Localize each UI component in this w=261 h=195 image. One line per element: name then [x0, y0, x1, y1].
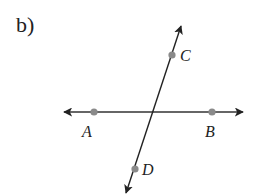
point-b — [208, 108, 215, 115]
point-d — [131, 165, 138, 172]
point-a-label: A — [81, 123, 92, 140]
point-c — [168, 51, 175, 58]
point-d-label: D — [141, 161, 154, 178]
point-c-label: C — [180, 47, 191, 64]
geometry-figure: A B C D — [0, 0, 261, 195]
point-b-label: B — [205, 123, 215, 140]
point-a — [90, 108, 97, 115]
